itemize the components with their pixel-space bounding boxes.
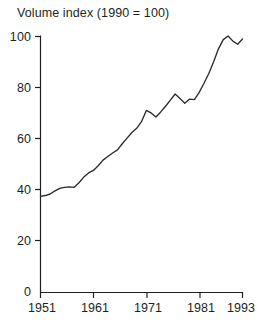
x-tick-label-1971: 1971 <box>134 301 162 315</box>
y-tick-label-0: 0 <box>24 285 31 299</box>
volume-index-line <box>41 36 243 196</box>
x-tick-label-1993-end: 1993 <box>227 301 255 315</box>
volume-index-chart: Volume index (1990 = 100) 100 80 60 40 2… <box>0 0 265 324</box>
x-tick-label-1951: 1951 <box>28 301 56 315</box>
y-tick-label-100: 100 <box>10 30 31 44</box>
y-tick-label-60: 60 <box>17 132 31 146</box>
x-tick-label-1993: 1981 <box>187 301 215 315</box>
axis-spines <box>41 36 243 293</box>
y-tick-label-80: 80 <box>17 81 31 95</box>
y-tick-label-20: 20 <box>17 234 31 248</box>
chart-plot-area: 100 80 60 40 20 0 1951 1961 1971 1981 19… <box>0 0 265 324</box>
x-tick-label-1961: 1961 <box>81 301 109 315</box>
y-tick-label-40: 40 <box>17 183 31 197</box>
